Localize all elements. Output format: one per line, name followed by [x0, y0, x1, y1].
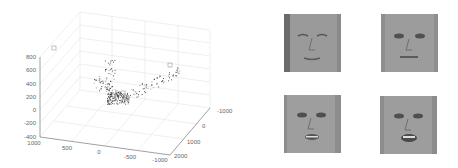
face-image-bottom-right	[380, 96, 437, 154]
svg-text:-1000: -1000	[217, 108, 233, 114]
svg-text:800: 800	[26, 54, 37, 60]
axis-grid	[40, 12, 210, 150]
svg-text:0: 0	[97, 149, 101, 155]
z-axis-ticks: 800 600 400 200 0 -200 -400	[24, 54, 37, 140]
face-image-top-right	[381, 14, 438, 72]
svg-text:-500: -500	[124, 154, 137, 160]
face-image-bottom-left	[284, 95, 341, 153]
face-image-top-left	[284, 14, 341, 72]
svg-text:400: 400	[26, 81, 37, 87]
svg-text:200: 200	[26, 94, 37, 100]
svg-text:500: 500	[62, 145, 73, 151]
scatter-3d-plot: 800 600 400 200 0 -200 -400 1000 500 0 -…	[0, 0, 250, 168]
svg-text:-200: -200	[24, 120, 37, 126]
svg-text:600: 600	[26, 67, 37, 73]
svg-text:-1000: -1000	[152, 157, 168, 163]
svg-text:2000: 2000	[174, 153, 188, 159]
svg-text:1000: 1000	[187, 139, 201, 145]
axis-lines	[40, 57, 210, 155]
svg-text:0: 0	[33, 107, 37, 113]
svg-text:0: 0	[202, 123, 206, 129]
svg-text:1000: 1000	[27, 140, 41, 146]
